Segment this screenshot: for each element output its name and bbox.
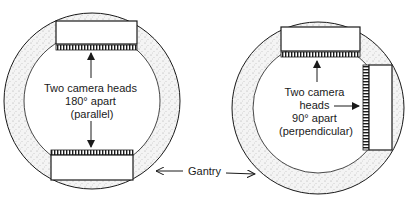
perpendicular-configuration: Two camera heads 90° apart (perpendicula…	[232, 22, 404, 194]
parallel-configuration: Two camera heads 180° apart (parallel)	[4, 13, 180, 189]
camera-head-side-right	[363, 65, 392, 150]
gantry-label: Gantry	[188, 165, 222, 177]
camera-head-bottom-left	[51, 150, 133, 180]
camera-head-top-left	[56, 21, 137, 50]
dual-head-camera-diagram: Two camera heads 180° apart (parallel) T…	[0, 0, 408, 201]
gantry-callout: Gantry	[156, 165, 255, 177]
camera-head-top-right	[281, 27, 360, 57]
gantry-arrow-right	[226, 173, 255, 174]
collimator-bottom-left	[51, 150, 133, 155]
collimator-top-right	[281, 52, 360, 57]
collimator-top-left	[56, 45, 137, 50]
collimator-side-right	[363, 65, 369, 150]
